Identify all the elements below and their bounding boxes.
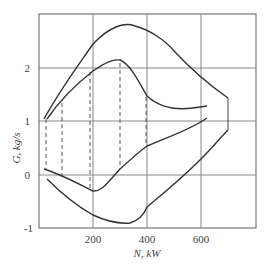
x-tick-400: 400 (139, 233, 156, 245)
dashed-connectors (46, 63, 146, 191)
curves (44, 25, 228, 224)
y-axis-label: G, kg/s (10, 132, 22, 163)
y-tick-1: 1 (25, 115, 31, 127)
x-tick-600: 600 (193, 233, 210, 245)
y-tick-2: 2 (25, 62, 31, 74)
curve-upper-outer (44, 25, 228, 119)
chart: 2 1 0 -1 200 400 600 N, kW G, kg/s (0, 0, 269, 268)
gridlines (39, 14, 256, 228)
curve-upper-inner (47, 60, 207, 119)
y-tick-neg1: -1 (24, 222, 33, 234)
curve-mid-rising (44, 118, 207, 191)
x-tick-200: 200 (85, 233, 102, 245)
y-tick-0: 0 (25, 169, 31, 181)
x-axis-label: N, kW (133, 247, 162, 259)
